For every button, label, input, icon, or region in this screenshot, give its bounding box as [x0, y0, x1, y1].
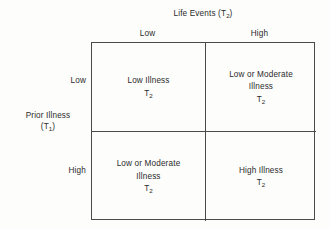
row-axis-title-line2-suffix: ) — [52, 122, 55, 131]
column-axis-title: Life Events (T2) — [91, 9, 315, 20]
row-axis-title: Prior Illness(T1) — [8, 111, 88, 132]
quadrant-text: Low IllnessT2 — [127, 75, 169, 99]
column-header-low: Low — [91, 29, 204, 40]
quadrant-line-3: T2 — [229, 94, 293, 106]
quadrant-line-2: Illness — [117, 171, 181, 183]
column-header-high: High — [204, 29, 315, 40]
quadrant-time-subscript: 2 — [262, 181, 265, 188]
quadrant-text: High IllnessT2 — [239, 165, 283, 189]
quadrant-text: Low or ModerateIllnessT2 — [229, 69, 293, 106]
quadrant-line-1: High Illness — [239, 166, 283, 175]
quadrant-line-2: T2 — [239, 177, 283, 189]
quadrant-low-prior-high-events: Low or ModerateIllnessT2 — [206, 43, 316, 131]
matrix-figure: Life Events (T2) Low High Prior Illness(… — [0, 0, 330, 229]
row-axis-title-line2-subscript: 1 — [49, 125, 52, 132]
column-axis-title-subscript: 2 — [226, 12, 229, 19]
row-axis-title-line2-prefix: (T — [41, 122, 49, 131]
quadrant-line-1: Low Illness — [127, 76, 169, 85]
quadrant-line-1: Low or Moderate — [117, 159, 181, 168]
quadrant-line-3: T2 — [117, 183, 181, 195]
quadrant-time-subscript: 2 — [149, 187, 152, 194]
quadrant-time-subscript: 2 — [149, 92, 152, 99]
quadrant-high-prior-high-events: High IllnessT2 — [206, 132, 316, 221]
row-axis-title-line1: Prior Illness — [26, 111, 71, 120]
quadrant-high-prior-low-events: Low or ModerateIllnessT2 — [92, 132, 205, 221]
column-axis-title-suffix: ) — [230, 9, 233, 18]
quadrant-low-prior-low-events: Low IllnessT2 — [92, 43, 205, 131]
column-axis-title-text: Life Events (T — [174, 9, 227, 18]
row-header-low: Low — [48, 76, 86, 87]
quadrant-line-1: Low or Moderate — [229, 70, 293, 79]
quadrant-text: Low or ModerateIllnessT2 — [117, 158, 181, 195]
quadrant-line-2: T2 — [127, 88, 169, 100]
quadrant-time-subscript: 2 — [262, 98, 265, 105]
row-axis-title-line2: (T1) — [8, 122, 88, 133]
row-header-high: High — [48, 166, 86, 177]
matrix-box: Low IllnessT2 Low or ModerateIllnessT2 L… — [91, 42, 315, 220]
quadrant-line-2: Illness — [229, 81, 293, 93]
